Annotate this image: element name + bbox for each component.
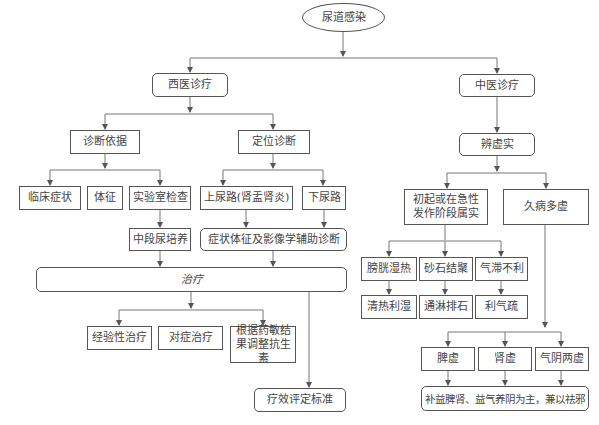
symptoms-imaging-diagnosis-node: 症状体征及影像学辅助诊断 (200, 228, 347, 251)
regulate-qi-node: 利气疏 (475, 295, 528, 319)
lower-urinary-tract-node: 下尿路 (302, 186, 346, 210)
diagnosis-basis-node: 诊断依据 (70, 130, 140, 154)
differentiate-deficiency-excess-node: 辨虚实 (459, 133, 535, 156)
root-node-urinary-tract-infection: 尿道感染 (302, 3, 385, 32)
treatment-node: 治疗 (36, 267, 347, 292)
qi-stagnation-node: 气滞不利 (475, 257, 528, 281)
adjust-antibiotics-node: 根据药敏结果调整抗生素 (230, 326, 296, 363)
upper-urinary-tract-node: 上尿路(肾盂肾炎) (200, 186, 293, 210)
expel-stones-node: 通淋排石 (419, 295, 473, 319)
localization-diagnosis-node: 定位诊断 (238, 130, 310, 154)
chronic-deficiency-node: 久病多虚 (503, 189, 589, 225)
excess-pattern-node: 初起或在急性发作阶段属实 (404, 189, 488, 225)
kidney-deficiency-node: 肾虚 (478, 347, 532, 371)
clear-heat-drain-damp-node: 清热利湿 (361, 295, 417, 319)
tonify-spleen-kidney-node: 补益脾肾、益气养阴为主，兼以祛邪 (421, 386, 589, 411)
bladder-damp-heat-node: 膀胱湿热 (361, 257, 417, 281)
lab-test-node: 实验室检查 (129, 186, 191, 210)
physical-signs-node: 体征 (87, 186, 123, 210)
western-medicine-node: 西医诊疗 (152, 73, 228, 97)
tcm-node: 中医诊疗 (459, 74, 535, 97)
efficacy-evaluation-node: 疗效评定标准 (254, 388, 346, 412)
empirical-treatment-node: 经验性治疗 (87, 326, 152, 350)
symptomatic-treatment-node: 对症治疗 (158, 326, 223, 350)
qi-yin-deficiency-node: 气阴两虚 (535, 347, 589, 371)
clinical-symptoms-node: 临床症状 (19, 186, 81, 210)
midstream-urine-culture-node: 中段尿培养 (129, 228, 191, 251)
spleen-deficiency-node: 脾虚 (421, 347, 475, 371)
stone-accumulation-node: 砂石结聚 (419, 257, 473, 281)
